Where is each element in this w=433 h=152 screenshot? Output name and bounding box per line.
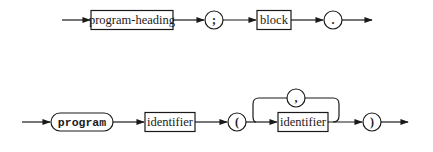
terminal-semicolon: ; [205,11,223,29]
svg-text:;: ; [212,13,216,27]
svg-text:.: . [332,13,335,27]
terminal-comma: , [287,89,305,107]
svg-text:,: , [295,91,298,105]
row-program-heading: program identifier ( , identifier ) [22,89,408,132]
row-program: program-heading ; block . [62,11,372,30]
svg-text:(: ( [235,115,239,129]
nonterminal-identifier-repeat: identifier [278,113,328,132]
syntax-diagram: program-heading ; block . program identi… [0,0,433,152]
svg-text:identifier: identifier [147,115,194,129]
diagram-svg: program-heading ; block . program identi… [0,0,433,152]
terminal-period: . [324,11,342,29]
nonterminal-identifier: identifier [145,113,195,132]
terminal-lparen: ( [228,113,246,131]
nonterminal-program-heading: program-heading [89,11,176,30]
terminal-rparen: ) [363,113,381,131]
svg-text:program: program [58,116,106,129]
svg-text:): ) [370,115,374,129]
keyword-program: program [51,113,113,131]
svg-text:identifier: identifier [280,115,327,129]
nonterminal-block: block [257,11,291,30]
svg-text:program-heading: program-heading [89,13,176,27]
svg-text:block: block [260,13,289,27]
